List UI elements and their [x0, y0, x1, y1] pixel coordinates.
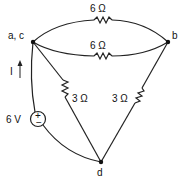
node-b: [166, 40, 170, 44]
label-r-right: 3 Ω: [112, 93, 128, 104]
circuit-diagram: + − 6 Ω 6 Ω 3 Ω 3 Ω 6 V a, c b d I: [0, 0, 184, 179]
label-current: I: [10, 66, 13, 77]
node-d: [99, 160, 103, 164]
label-r-left: 3 Ω: [72, 93, 88, 104]
current-arrow-icon: [18, 60, 23, 78]
svg-text:−: −: [36, 117, 42, 128]
label-node-b: b: [172, 30, 178, 41]
node-ac: [31, 40, 35, 44]
label-source: 6 V: [6, 114, 21, 125]
resistor-top-branch: [33, 17, 168, 42]
label-node-d: d: [97, 167, 103, 178]
label-node-ac: a, c: [8, 30, 24, 41]
label-r-mid: 6 Ω: [90, 40, 106, 51]
resistor-left-branch: [33, 42, 101, 162]
label-r-top: 6 Ω: [90, 3, 106, 14]
